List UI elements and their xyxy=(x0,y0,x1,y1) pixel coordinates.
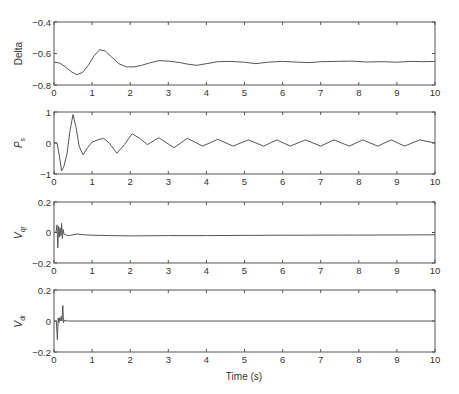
x-tick-label: 5 xyxy=(242,176,247,187)
x-tick-label: 0 xyxy=(51,176,56,187)
x-tick-label: 2 xyxy=(128,265,133,276)
x-tick-label: 3 xyxy=(166,87,171,98)
x-tick-label: 7 xyxy=(318,176,323,187)
x-tick-label: 2 xyxy=(128,176,133,187)
y-tick-label: 1 xyxy=(46,107,51,118)
x-tick-label: 1 xyxy=(89,87,94,98)
x-tick-label: 8 xyxy=(356,354,361,365)
x-tick-label: 2 xyxy=(128,87,133,98)
y-tick-label: −0.2 xyxy=(32,258,51,269)
axes-box xyxy=(54,202,435,263)
x-tick-label: 10 xyxy=(430,87,441,98)
subplot-ps: 012345678910−101Ps xyxy=(13,107,440,188)
subplots: 012345678910−0.8−0.6−0.4Delta01234567891… xyxy=(13,17,440,366)
x-tick-label: 6 xyxy=(280,265,285,276)
x-tick-label: 6 xyxy=(280,87,285,98)
x-tick-label: 5 xyxy=(242,354,247,365)
x-tick-label: 10 xyxy=(430,265,441,276)
x-tick-label: 6 xyxy=(280,176,285,187)
subplot-vqr: 012345678910−0.200.2Vqr xyxy=(13,197,440,277)
x-tick-label: 4 xyxy=(204,265,209,276)
x-tick-label: 1 xyxy=(89,354,94,365)
y-tick-label: 0.2 xyxy=(38,197,51,208)
x-tick-label: 8 xyxy=(356,265,361,276)
x-tick-label: 1 xyxy=(89,176,94,187)
data-line xyxy=(54,115,435,171)
y-tick-label: −1 xyxy=(40,169,51,180)
x-tick-label: 0 xyxy=(51,354,56,365)
x-tick-label: 3 xyxy=(166,265,171,276)
y-tick-label: −0.6 xyxy=(32,48,51,59)
axes-box xyxy=(54,112,435,174)
y-tick-label: 0 xyxy=(46,316,51,327)
data-line xyxy=(54,223,435,248)
data-line xyxy=(54,50,435,75)
x-tick-label: 5 xyxy=(242,87,247,98)
y-axis-label: Vdr xyxy=(13,314,26,328)
x-tick-label: 5 xyxy=(242,265,247,276)
x-tick-label: 9 xyxy=(394,87,399,98)
data-line xyxy=(54,306,435,340)
x-tick-label: 4 xyxy=(204,354,209,365)
y-axis-label: Ps xyxy=(13,137,26,148)
subplot-delta: 012345678910−0.8−0.6−0.4Delta xyxy=(13,17,440,99)
y-tick-label: −0.2 xyxy=(32,347,51,358)
y-tick-label: −0.4 xyxy=(32,17,51,28)
x-tick-label: 6 xyxy=(280,354,285,365)
subplot-vdr: 012345678910−0.200.2Vdr xyxy=(13,285,440,366)
x-tick-label: 10 xyxy=(430,176,441,187)
x-tick-label: 9 xyxy=(394,354,399,365)
x-tick-label: 7 xyxy=(318,265,323,276)
x-tick-label: 2 xyxy=(128,354,133,365)
x-tick-label: 7 xyxy=(318,354,323,365)
y-tick-label: 0 xyxy=(46,138,51,149)
x-tick-label: 3 xyxy=(166,354,171,365)
x-tick-label: 3 xyxy=(166,176,171,187)
x-tick-label: 8 xyxy=(356,176,361,187)
x-tick-label: 0 xyxy=(51,87,56,98)
y-axis-label: Vqr xyxy=(13,225,27,239)
x-tick-label: 4 xyxy=(204,87,209,98)
x-axis-label: Time (s) xyxy=(226,371,262,382)
y-tick-label: −0.8 xyxy=(32,80,51,91)
x-tick-label: 7 xyxy=(318,87,323,98)
axes-box xyxy=(54,22,435,85)
y-tick-label: 0.2 xyxy=(38,285,51,296)
x-tick-label: 0 xyxy=(51,265,56,276)
figure: 012345678910−0.8−0.6−0.4Delta01234567891… xyxy=(0,0,459,394)
x-tick-label: 9 xyxy=(394,265,399,276)
y-axis-label: Delta xyxy=(13,41,24,65)
x-tick-label: 10 xyxy=(430,354,441,365)
x-tick-label: 9 xyxy=(394,176,399,187)
y-tick-label: 0 xyxy=(46,227,51,238)
x-tick-label: 8 xyxy=(356,87,361,98)
x-tick-label: 4 xyxy=(204,176,209,187)
x-tick-label: 1 xyxy=(89,265,94,276)
